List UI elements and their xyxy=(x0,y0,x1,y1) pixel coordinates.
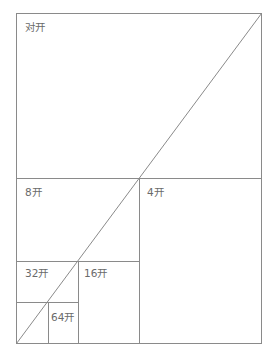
label-16kai: 16开 xyxy=(84,268,107,279)
label-32kai: 32开 xyxy=(25,268,48,279)
label-4kai: 4开 xyxy=(147,187,164,198)
label-8kai: 8开 xyxy=(25,187,42,198)
paper-size-diagram xyxy=(0,0,270,346)
label-64kai: 64开 xyxy=(51,312,74,323)
label-duikai: 对开 xyxy=(25,22,45,33)
